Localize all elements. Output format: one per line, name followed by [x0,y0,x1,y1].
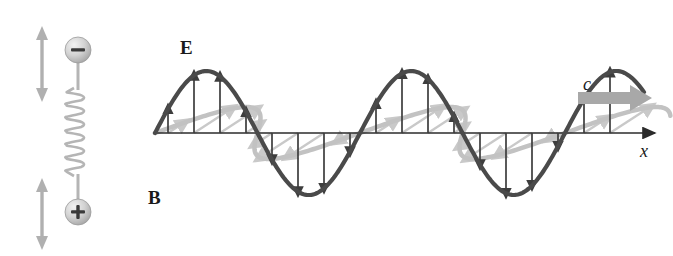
emwave-canvas [0,0,673,256]
oscillation-arrow-bottom [36,178,48,250]
e-field-label: E [180,38,193,57]
negative-charge-sphere [65,37,91,63]
speed-of-light-label: c [583,75,591,93]
positive-charge-sphere [65,199,91,225]
oscillation-arrow-top [36,26,48,102]
antenna-coil [65,88,84,176]
b-field-label: B [148,188,161,207]
emwave-figure: E B c x [0,0,673,256]
dipole-antenna [36,26,91,250]
x-axis-label: x [640,142,648,160]
